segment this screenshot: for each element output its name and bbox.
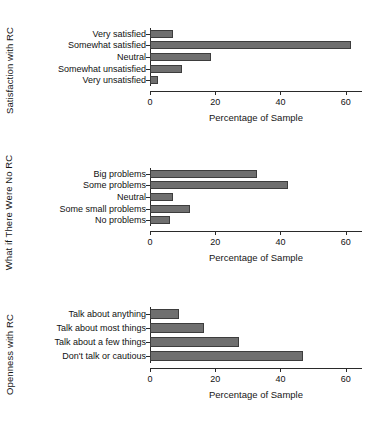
bar: [150, 193, 173, 201]
x-axis-tick: [280, 91, 281, 95]
y-axis-category-label: Neutral: [117, 192, 146, 202]
chart-panel-openness: Openness with RC Talk about anythingTalk…: [0, 285, 378, 423]
bar: [150, 76, 158, 84]
x-axis-tick: [346, 368, 347, 372]
y-axis-category-label: No problems: [95, 215, 146, 225]
y-axis-category-label: Talk about anything: [68, 309, 146, 319]
bar: [150, 205, 190, 213]
x-axis-tick-label: 60: [341, 374, 351, 384]
x-axis-tick: [215, 91, 216, 95]
chart-panel-no-rc: What if There Were No RC Big problemsSom…: [0, 140, 378, 285]
bar: [150, 30, 173, 38]
x-axis-tick: [215, 368, 216, 372]
y-axis-category-labels: Very satisfiedSomewhat satisfiedNeutralS…: [28, 28, 146, 86]
x-axis-title: Percentage of Sample: [209, 389, 303, 400]
x-axis-tick: [346, 231, 347, 235]
x-axis-line: [150, 231, 362, 232]
y-axis-tick: [146, 45, 150, 46]
bar: [150, 41, 351, 49]
y-axis-tick: [146, 34, 150, 35]
x-axis-line: [150, 368, 362, 369]
plot-area: 0204060Percentage of Sample: [150, 307, 362, 363]
x-axis-tick: [280, 368, 281, 372]
bar: [150, 216, 170, 224]
bar: [150, 53, 211, 61]
y-axis-category-label: Some small problems: [59, 204, 146, 214]
y-axis-tick: [146, 174, 150, 175]
x-axis-tick-label: 0: [147, 97, 152, 107]
bar: [150, 181, 288, 189]
y-axis-tick: [146, 356, 150, 357]
x-axis-tick: [150, 91, 151, 95]
x-axis-tick-label: 20: [210, 237, 220, 247]
x-axis-title: Percentage of Sample: [209, 252, 303, 263]
x-axis-tick-label: 20: [210, 374, 220, 384]
y-axis-tick: [146, 220, 150, 221]
bar: [150, 323, 204, 333]
x-axis-tick: [346, 91, 347, 95]
bar: [150, 351, 303, 361]
y-axis-tick: [146, 342, 150, 343]
x-axis-tick-label: 40: [275, 237, 285, 247]
y-axis-category-label: Somewhat unsatisfied: [58, 64, 146, 74]
y-axis-title: Satisfaction with RC: [0, 0, 18, 140]
x-axis-tick-label: 20: [210, 97, 220, 107]
x-axis-tick-label: 60: [341, 97, 351, 107]
plot-area: 0204060Percentage of Sample: [150, 28, 362, 86]
y-axis-category-label: Don't talk or cautious: [62, 351, 146, 361]
x-axis-tick-label: 0: [147, 374, 152, 384]
x-axis-tick-label: 0: [147, 237, 152, 247]
x-axis-tick: [215, 231, 216, 235]
y-axis-title: Openness with RC: [0, 285, 18, 423]
y-axis-category-label: Somewhat satisfied: [68, 40, 146, 50]
x-axis-tick-label: 60: [341, 237, 351, 247]
y-axis-title: What if There Were No RC: [0, 140, 18, 285]
y-axis-tick: [146, 197, 150, 198]
y-axis-category-label: Talk about a few things: [54, 337, 146, 347]
y-axis-category-label: Big problems: [93, 169, 146, 179]
bar: [150, 65, 182, 73]
bar: [150, 337, 239, 347]
x-axis-tick-label: 40: [275, 97, 285, 107]
chart-panel-satisfaction: Satisfaction with RC Very satisfiedSomew…: [0, 0, 378, 140]
y-axis-tick: [146, 57, 150, 58]
y-axis-category-label: Neutral: [117, 52, 146, 62]
y-axis-tick: [146, 314, 150, 315]
x-axis-tick: [150, 368, 151, 372]
y-axis-category-label: Talk about most things: [56, 323, 146, 333]
y-axis-category-labels: Big problemsSome problemsNeutralSome sma…: [28, 168, 146, 226]
plot-area: 0204060Percentage of Sample: [150, 168, 362, 226]
y-axis-tick: [146, 80, 150, 81]
x-axis-title: Percentage of Sample: [209, 112, 303, 123]
x-axis-tick: [150, 231, 151, 235]
y-axis-tick: [146, 185, 150, 186]
bar: [150, 309, 179, 319]
y-axis-tick: [146, 328, 150, 329]
x-axis-tick-label: 40: [275, 374, 285, 384]
x-axis-line: [150, 91, 362, 92]
x-axis-tick: [280, 231, 281, 235]
y-axis-tick: [146, 69, 150, 70]
y-axis-category-label: Very satisfied: [92, 29, 146, 39]
y-axis-category-label: Very unsatisfied: [82, 75, 146, 85]
bar: [150, 170, 257, 178]
figure-panel-stack: Satisfaction with RC Very satisfiedSomew…: [0, 0, 378, 423]
y-axis-tick: [146, 209, 150, 210]
y-axis-category-label: Some problems: [83, 180, 146, 190]
y-axis-category-labels: Talk about anythingTalk about most thing…: [28, 307, 146, 363]
